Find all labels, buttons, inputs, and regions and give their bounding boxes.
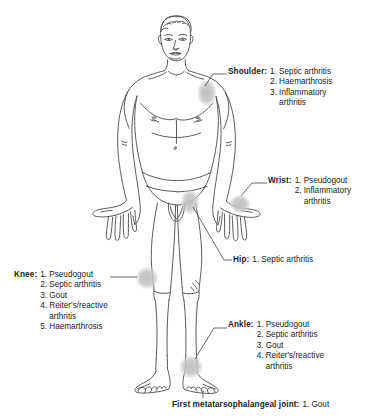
callout-hip-joint: Hip: bbox=[233, 255, 252, 265]
callout-knee-conditions: 1.Pseudogout 2.Septic arthritis 3.Gout 4… bbox=[40, 270, 107, 332]
callout-shoulder-joint: Shoulder: bbox=[228, 67, 270, 77]
condition-number: 1. bbox=[252, 255, 261, 265]
condition-number: 3. bbox=[270, 88, 279, 98]
condition-text-continuation: arthritis bbox=[257, 362, 324, 372]
leader-ankle bbox=[195, 328, 227, 359]
callout-hip-conditions: 1.Septic arthritis bbox=[252, 255, 313, 265]
condition-number: 2. bbox=[40, 280, 49, 290]
hip-marker bbox=[181, 190, 199, 214]
callout-knee: Knee: 1.Pseudogout 2.Septic arthritis 3.… bbox=[14, 270, 108, 332]
condition-text: Reiter's/reactive bbox=[49, 301, 107, 311]
condition-text: Gout bbox=[49, 291, 67, 301]
condition-text: Pseudogout bbox=[49, 270, 93, 280]
condition-text: Gout bbox=[311, 400, 329, 410]
callout-wrist-joint: Wrist: bbox=[268, 176, 295, 186]
callout-shoulder: Shoulder: 1.Septic arthritis 2.Haemarthr… bbox=[228, 67, 332, 109]
condition-text-continuation: arthritis bbox=[40, 312, 107, 322]
condition-text: Septic arthritis bbox=[266, 330, 318, 340]
callout-hip: Hip: 1.Septic arthritis bbox=[233, 255, 313, 265]
callout-mtp-joint: First metatarsophalangeal joint: bbox=[172, 400, 302, 410]
condition-text: Septic arthritis bbox=[49, 280, 101, 290]
condition-text: Haemarthrosis bbox=[49, 322, 102, 332]
condition-text: Reiter's/reactive bbox=[266, 351, 324, 361]
condition-number: 4. bbox=[257, 351, 266, 361]
condition-text: Pseudogout bbox=[266, 320, 310, 330]
condition-number: 1. bbox=[270, 67, 279, 77]
condition-number: 4. bbox=[40, 301, 49, 311]
condition-number: 5. bbox=[40, 322, 49, 332]
condition-text: Pseudogout bbox=[304, 176, 348, 186]
condition-text: Haemarthrosis bbox=[279, 77, 332, 87]
shoulder-marker bbox=[198, 80, 217, 106]
condition-number: 1. bbox=[40, 270, 49, 280]
knee-marker bbox=[136, 267, 158, 289]
condition-text: Septic arthritis bbox=[261, 255, 313, 265]
condition-number: 1. bbox=[295, 176, 304, 186]
callout-mtp-conditions: 1.Gout bbox=[302, 400, 329, 410]
callout-ankle-joint: Ankle: bbox=[228, 320, 257, 330]
condition-text-continuation: arthritis bbox=[270, 98, 332, 108]
condition-number: 3. bbox=[257, 341, 266, 351]
condition-number: 1. bbox=[302, 400, 311, 410]
condition-number: 2. bbox=[270, 77, 279, 87]
callout-shoulder-conditions: 1.Septic arthritis 2.Haemarthrosis 3.Inf… bbox=[270, 67, 332, 109]
condition-number: 2. bbox=[295, 186, 304, 196]
condition-text: Septic arthritis bbox=[279, 67, 331, 77]
callout-mtp: First metatarsophalangeal joint: 1.Gout bbox=[172, 400, 329, 410]
condition-text: Gout bbox=[266, 341, 284, 351]
callout-wrist: Wrist: 1.Pseudogout 2.Inflammatory arthr… bbox=[268, 176, 351, 207]
condition-text: Inflammatory bbox=[304, 186, 351, 196]
condition-number: 3. bbox=[40, 291, 49, 301]
callout-knee-joint: Knee: bbox=[14, 270, 40, 280]
callout-wrist-conditions: 1.Pseudogout 2.Inflammatory arthritis bbox=[295, 176, 351, 207]
wrist-marker bbox=[230, 195, 250, 213]
condition-text: Inflammatory bbox=[279, 88, 326, 98]
condition-number: 1. bbox=[257, 320, 266, 330]
callout-ankle: Ankle: 1.Pseudogout 2.Septic arthritis 3… bbox=[228, 320, 324, 372]
ankle-marker bbox=[180, 356, 203, 378]
condition-text-continuation: arthritis bbox=[295, 197, 351, 207]
leader-hip bbox=[193, 207, 232, 260]
leader-wrist bbox=[241, 183, 267, 196]
callout-ankle-conditions: 1.Pseudogout 2.Septic arthritis 3.Gout 4… bbox=[257, 320, 324, 372]
condition-number: 2. bbox=[257, 330, 266, 340]
